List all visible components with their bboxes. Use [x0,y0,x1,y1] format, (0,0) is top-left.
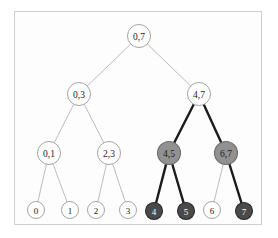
tree-edge-n4_5-l5 [172,164,183,203]
tree-edge-n4_7-n4_5 [174,104,194,142]
node-label: 3 [126,206,131,216]
node-label: 6 [210,206,215,216]
tree-edge-n4_5-l4 [156,164,166,203]
tree-edge-n0_7-n0_3 [87,44,130,86]
node-label: 0,7 [133,32,145,42]
tree-node-n4_5[interactable]: 4,5 [158,142,181,165]
tree-edge-n0_7-n4_7 [147,44,190,86]
tree-edge-n0_3-n0_1 [54,104,74,142]
tree-edge-n0_1-l0 [38,164,47,202]
tree-node-n0_7[interactable]: 0,7 [128,25,151,48]
node-label: 4 [152,207,157,217]
node-label: 0,1 [43,149,55,159]
tree-node-l1[interactable]: 1 [62,202,79,219]
node-label: 1 [68,206,73,216]
edge-layer [38,44,242,203]
node-label: 5 [184,207,189,217]
tree-edge-n6_7-l6 [214,164,223,202]
tree-edge-n2_3-l2 [98,164,107,202]
node-label: 4,7 [193,90,205,100]
tree-node-l4[interactable]: 4 [146,203,163,220]
tree-node-n4_7[interactable]: 4,7 [188,83,211,106]
tree-edge-n2_3-l3 [113,164,126,202]
tree-node-n2_3[interactable]: 2,3 [98,142,121,165]
node-label: 7 [242,207,247,217]
tree-edge-n0_1-l1 [53,164,67,202]
node-label: 2 [94,206,99,216]
tree-node-l7[interactable]: 7 [236,203,253,220]
tree-node-l3[interactable]: 3 [120,202,137,219]
node-label: 0 [34,206,39,216]
tree-edge-n4_7-n6_7 [204,104,221,142]
tree-edge-n0_3-n2_3 [84,104,104,142]
node-label: 0,3 [73,90,85,100]
tree-node-l0[interactable]: 0 [28,202,45,219]
segment-tree-figure: 0,70,34,70,12,34,56,701234567 [0,0,278,238]
tree-node-n6_7[interactable]: 6,7 [215,142,238,165]
tree-node-n0_1[interactable]: 0,1 [38,142,61,165]
tree-node-l2[interactable]: 2 [88,202,105,219]
node-layer: 0,70,34,70,12,34,56,701234567 [28,25,253,220]
tree-node-l5[interactable]: 5 [178,203,195,220]
node-label: 6,7 [220,149,232,159]
tree-node-n0_3[interactable]: 0,3 [68,83,91,106]
tree-node-l6[interactable]: 6 [204,202,221,219]
tree-edge-n6_7-l7 [229,164,241,203]
node-label: 2,3 [103,149,115,159]
tree-canvas: 0,70,34,70,12,34,56,701234567 [0,0,278,238]
node-label: 4,5 [163,149,175,159]
